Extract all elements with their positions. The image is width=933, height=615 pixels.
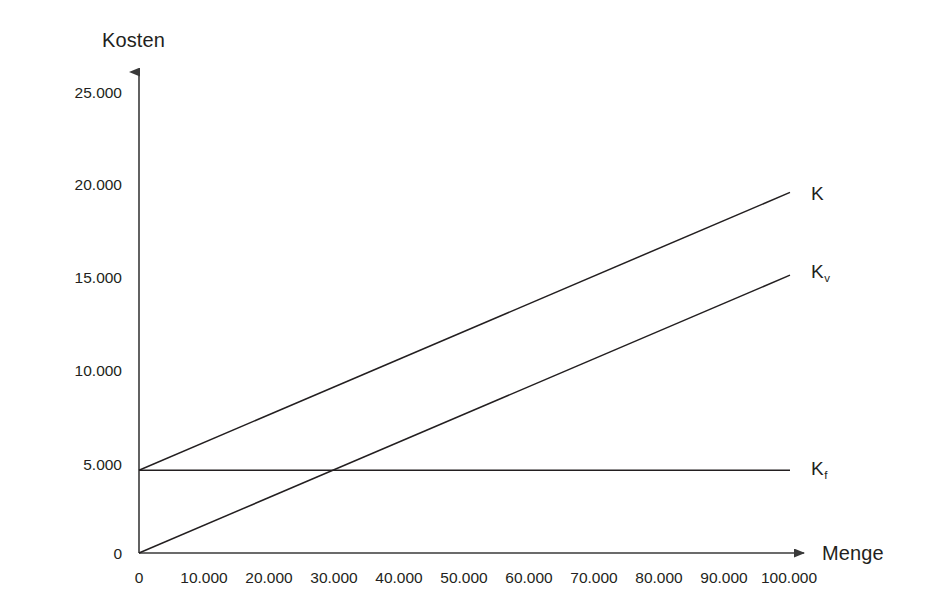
y-tick-label-5000: 5.000 <box>26 457 122 473</box>
x-tick-label-20000: 20.000 <box>232 570 306 586</box>
x-tick-label-50000: 50.000 <box>427 570 501 586</box>
y-tick-label-10000: 10.000 <box>26 363 122 379</box>
x-tick-label-10000: 10.000 <box>167 570 241 586</box>
series-label-kv-text: K <box>811 261 824 282</box>
y-tick-label-15000: 15.000 <box>26 270 122 286</box>
y-tick-label-0: 0 <box>26 546 122 562</box>
x-tick-label-60000: 60.000 <box>492 570 566 586</box>
series-line-kv <box>139 275 790 553</box>
x-tick-label-100000: 100.000 <box>752 570 826 586</box>
series-label-k: K <box>811 184 824 203</box>
chart-plot-area <box>0 0 933 615</box>
series-label-kf-text: K <box>811 458 824 479</box>
series-line-k <box>139 192 790 470</box>
x-tick-label-30000: 30.000 <box>297 570 371 586</box>
y-tick-label-25000: 25.000 <box>26 85 122 101</box>
y-tick-label-20000: 20.000 <box>26 177 122 193</box>
y-axis-title: Kosten <box>102 30 165 50</box>
series-label-kv: Kv <box>811 262 829 281</box>
cost-function-chart: Kosten Menge 25.000 20.000 15.000 10.000… <box>0 0 933 615</box>
x-tick-label-0: 0 <box>102 570 176 586</box>
x-tick-label-80000: 80.000 <box>622 570 696 586</box>
x-tick-label-90000: 90.000 <box>687 570 761 586</box>
series-label-kf: Kf <box>811 459 827 478</box>
x-tick-label-70000: 70.000 <box>557 570 631 586</box>
series-label-kf-subscript: f <box>824 469 827 481</box>
series-label-kv-subscript: v <box>824 272 830 284</box>
series-label-k-text: K <box>811 183 824 204</box>
x-tick-label-40000: 40.000 <box>362 570 436 586</box>
x-axis-title: Menge <box>822 543 884 563</box>
